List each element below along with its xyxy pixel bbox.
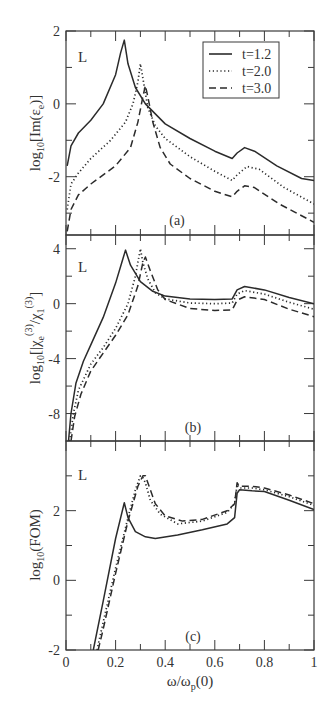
y-tick-label: -8 bbox=[48, 407, 60, 422]
y-tick-label: 0 bbox=[53, 97, 60, 112]
y-tick-label: -4 bbox=[48, 352, 60, 367]
x-tick-label: 0.6 bbox=[206, 655, 224, 670]
series-dotted bbox=[70, 249, 314, 441]
panel-c-frame bbox=[66, 441, 314, 650]
x-tick-labels: 00.20.40.60.81 bbox=[63, 655, 318, 670]
x-tick-label: 0.8 bbox=[256, 655, 274, 670]
series-dotted bbox=[97, 476, 314, 650]
series-solid bbox=[93, 490, 314, 650]
panel-a-corner-label: L bbox=[78, 49, 87, 65]
x-tick-label: 0.2 bbox=[107, 655, 125, 670]
panel-c-ylabel: log10(FOM) bbox=[27, 509, 46, 581]
panel-b-ticks bbox=[66, 235, 314, 441]
panel-a: 20-2 L (a) log10[Im(εe)] t=1.2 t=2.0 t=3… bbox=[27, 24, 314, 235]
x-axis-label: ω/ωp(0) bbox=[167, 673, 213, 692]
y-tick-label: -2 bbox=[48, 643, 60, 658]
panel-b-frame bbox=[66, 235, 314, 441]
legend-label-t20: t=2.0 bbox=[242, 64, 271, 79]
y-tick-label: 2 bbox=[53, 24, 60, 39]
panel-c-ticks bbox=[66, 441, 314, 650]
series-dashed bbox=[67, 86, 314, 232]
panel-a-ytick-labels: 20-2 bbox=[48, 24, 60, 185]
y-tick-label: 0 bbox=[53, 573, 60, 588]
legend: t=1.2 t=2.0 t=3.0 bbox=[203, 42, 279, 98]
panel-c: 20-2 00.20.40.60.81 L (c) log10(FOM) ω/ω… bbox=[27, 441, 318, 692]
panel-b-ylabel: log10[|χe(3)/χ1(3)] bbox=[23, 292, 46, 384]
panel-b-series bbox=[69, 249, 315, 441]
y-tick-label: 4 bbox=[53, 242, 60, 257]
panel-b: 40-4-8 L (b) log10[|χe(3)/χ1(3)] bbox=[23, 235, 314, 441]
x-tick-label: 0 bbox=[63, 655, 70, 670]
panel-c-ytick-labels: 20-2 bbox=[48, 504, 60, 658]
panel-b-label: (b) bbox=[185, 420, 202, 436]
panel-a-label: (a) bbox=[169, 213, 185, 229]
y-tick-label: 0 bbox=[53, 297, 60, 312]
series-dashed bbox=[98, 476, 314, 650]
series-solid bbox=[69, 250, 315, 441]
panel-a-ylabel: log10[Im(εe)] bbox=[27, 95, 46, 172]
series-dashed bbox=[71, 257, 314, 441]
legend-label-t12: t=1.2 bbox=[242, 47, 271, 62]
x-tick-label: 0.4 bbox=[156, 655, 174, 670]
legend-label-t30: t=3.0 bbox=[242, 81, 271, 96]
y-tick-label: -2 bbox=[48, 170, 60, 185]
figure: 20-2 L (a) log10[Im(εe)] t=1.2 t=2.0 t=3… bbox=[0, 0, 331, 712]
chart-canvas: 20-2 L (a) log10[Im(εe)] t=1.2 t=2.0 t=3… bbox=[0, 0, 331, 712]
x-tick-label: 1 bbox=[311, 655, 318, 670]
y-tick-label: 2 bbox=[53, 504, 60, 519]
panel-c-series bbox=[93, 476, 314, 650]
panel-c-corner-label: L bbox=[78, 467, 87, 483]
panel-b-corner-label: L bbox=[78, 259, 87, 275]
panel-c-label: (c) bbox=[185, 629, 201, 645]
panel-b-ytick-labels: 40-4-8 bbox=[48, 242, 60, 422]
